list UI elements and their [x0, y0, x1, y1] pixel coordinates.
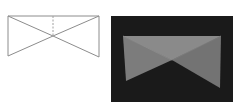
wireframe-diagram [8, 16, 99, 57]
wireframe-diagonal-top-right [53, 16, 99, 36]
figure-canvas [0, 0, 239, 109]
wireframe-diagonal-bottom-right [53, 36, 99, 57]
wireframe-diagonal-top-left [8, 16, 53, 36]
shaded-render [111, 16, 233, 102]
wireframe-diagonal-bottom-left [8, 36, 53, 56]
mesh-comparison-figure [0, 0, 239, 109]
